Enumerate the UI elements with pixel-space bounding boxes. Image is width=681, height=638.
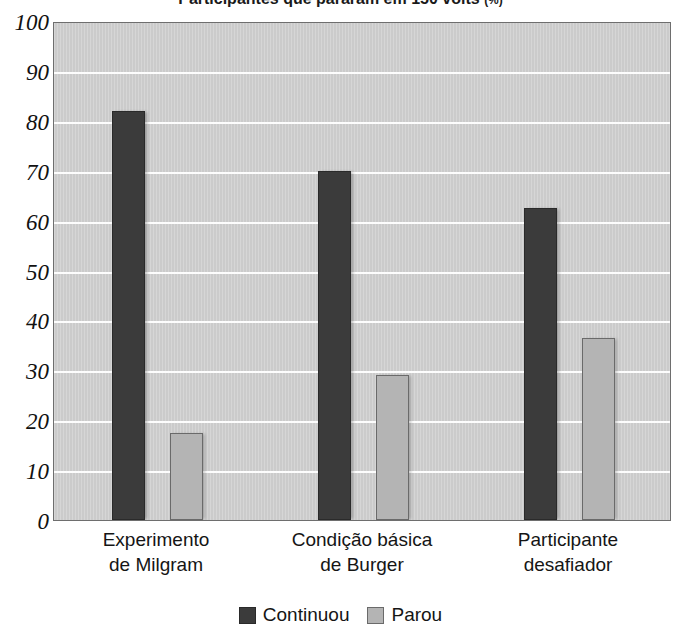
bar-chart-figure: Participantes que pararam em 150 volts (…	[0, 0, 681, 638]
legend-item-continuou[interactable]: Continuou	[239, 604, 350, 626]
x-axis-category-label-line: Condição básica	[292, 529, 432, 550]
x-axis-category-label: Condição básicade Burger	[259, 527, 465, 578]
chart-title-main: Participantes que pararam em 150 volts	[178, 0, 479, 7]
gridline	[54, 421, 670, 423]
bar-continuou	[318, 171, 351, 520]
y-axis-tick-label: 60	[2, 210, 49, 233]
bar-parou	[170, 433, 203, 520]
y-axis-tick-label: 100	[2, 11, 49, 34]
y-axis-tick-label: 90	[2, 60, 49, 83]
plot-area	[53, 22, 671, 521]
gridline	[54, 222, 670, 224]
x-axis-category-label-line: desafiador	[465, 552, 671, 577]
y-axis-tick-label: 50	[2, 260, 49, 283]
x-axis-category-label-line: Participante	[518, 529, 618, 550]
gridline	[54, 122, 670, 124]
y-axis-tick-label: 10	[2, 460, 49, 483]
gridline	[54, 272, 670, 274]
x-axis-category-labels: Experimentode MilgramCondição básicade B…	[53, 527, 671, 589]
bar-parou	[582, 338, 615, 520]
y-axis-tick-label: 40	[2, 310, 49, 333]
legend-swatch-parou-icon	[367, 607, 384, 624]
bar-continuou	[112, 111, 145, 520]
x-axis-category-label-line: de Milgram	[53, 552, 259, 577]
gridline	[54, 172, 670, 174]
legend-label: Parou	[391, 604, 442, 626]
chart-title-unit: (%)	[484, 0, 503, 7]
chart-title: Participantes que pararam em 150 volts (…	[0, 0, 681, 8]
y-axis: 0102030405060708090100	[0, 0, 49, 638]
gridline	[54, 321, 670, 323]
y-axis-tick-label: 0	[2, 510, 49, 533]
legend-label: Continuou	[263, 604, 350, 626]
legend-swatch-continuou-icon	[239, 607, 256, 624]
x-axis-category-label-line: de Burger	[259, 552, 465, 577]
x-axis-category-label-line: Experimento	[103, 529, 210, 550]
y-axis-tick-label: 70	[2, 160, 49, 183]
bar-parou	[376, 375, 409, 520]
chart-legend: ContinuouParou	[0, 598, 681, 632]
y-axis-tick-label: 20	[2, 410, 49, 433]
y-axis-tick-label: 80	[2, 110, 49, 133]
legend-item-parou[interactable]: Parou	[367, 604, 442, 626]
gridline	[54, 371, 670, 373]
gridline	[54, 72, 670, 74]
bar-continuou	[524, 208, 557, 520]
x-axis-category-label: Experimentode Milgram	[53, 527, 259, 578]
gridline	[54, 471, 670, 473]
y-axis-tick-label: 30	[2, 360, 49, 383]
x-axis-category-label: Participantedesafiador	[465, 527, 671, 578]
